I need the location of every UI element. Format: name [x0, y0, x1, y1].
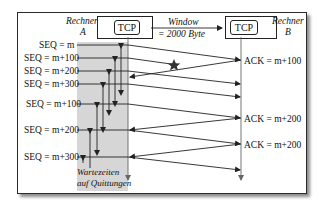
diagram-lines: [0, 0, 319, 206]
tcp-window-diagram: Rechner A TCP TCP Rechner B Window = 200…: [0, 0, 319, 206]
star-icon: [168, 59, 181, 71]
